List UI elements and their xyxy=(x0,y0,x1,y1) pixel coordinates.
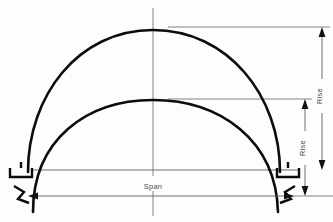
rise-outer-arrow-bottom xyxy=(319,160,326,170)
rise-inner-label: Rise xyxy=(298,140,307,156)
left-hinge-shoe xyxy=(14,186,29,203)
rise-outer-label: Rise xyxy=(315,88,324,104)
rise-outer-arrow-top xyxy=(319,27,326,37)
arch-diagram: Span Rise Rise xyxy=(0,0,333,222)
span-label: Span xyxy=(144,182,162,191)
arch-diagram-canvas: Span Rise Rise xyxy=(0,0,333,222)
rise-inner-arrow-top xyxy=(302,99,309,109)
inner-arch-curve xyxy=(33,100,278,212)
rise-inner-arrow-bottom xyxy=(302,186,309,196)
